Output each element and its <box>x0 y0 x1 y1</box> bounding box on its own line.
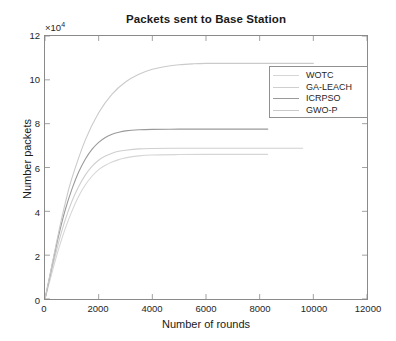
legend-line-swatch <box>273 110 299 111</box>
x-tick-label: 10000 <box>301 303 327 314</box>
x-tick-label: 0 <box>41 303 46 314</box>
x-tick-label: 2000 <box>87 303 108 314</box>
legend-item-gwo-p[interactable]: GWO-P <box>270 105 367 117</box>
y-tick-label: 0 <box>14 295 40 306</box>
chart-title: Packets sent to Base Station <box>44 13 368 25</box>
chart-legend[interactable]: WOTCGA-LEACHICRPSOGWO-P <box>269 66 368 118</box>
legend-line-swatch <box>273 75 299 76</box>
y-axis-exponent-label: ×104 <box>45 21 65 33</box>
legend-item-wotc[interactable]: WOTC <box>270 70 367 82</box>
y-axis-exponent-power: 4 <box>61 21 65 28</box>
legend-line-swatch <box>273 87 299 88</box>
y-tick-label: 12 <box>14 30 40 41</box>
legend-item-label: GWO-P <box>306 105 338 117</box>
legend-line-swatch <box>273 98 299 99</box>
x-tick-label: 12000 <box>355 303 381 314</box>
y-axis-title: Number packets <box>21 79 33 239</box>
x-tick-label: 8000 <box>249 303 270 314</box>
legend-item-label: GA-LEACH <box>306 82 352 94</box>
chart-figure: Packets sent to Base Station ×104 024681… <box>0 0 396 341</box>
legend-item-icrpso[interactable]: ICRPSO <box>270 93 367 105</box>
x-tick-label: 4000 <box>141 303 162 314</box>
legend-item-label: ICRPSO <box>306 93 341 105</box>
x-tick-label: 6000 <box>195 303 216 314</box>
y-axis-exponent-base: ×10 <box>45 22 61 33</box>
series-line-ga-leach <box>45 148 303 299</box>
y-tick-label: 2 <box>14 250 40 261</box>
legend-item-ga-leach[interactable]: GA-LEACH <box>270 82 367 94</box>
x-axis-tick-labels: 020004000600080001000012000 <box>44 303 368 317</box>
legend-item-label: WOTC <box>306 70 334 82</box>
series-line-wotc <box>45 154 268 299</box>
x-axis-title: Number of rounds <box>44 318 368 330</box>
